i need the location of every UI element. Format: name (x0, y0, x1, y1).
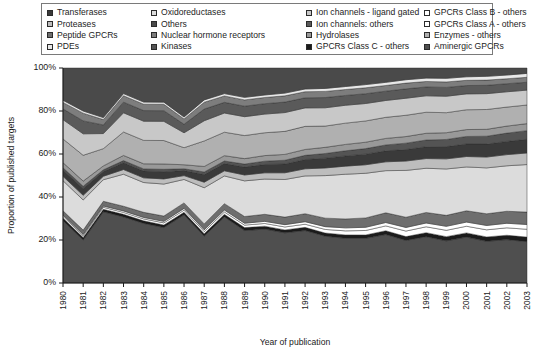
x-tick-label: 1996 (381, 291, 391, 310)
legend-item[interactable]: Peptide GPCRs (47, 31, 151, 40)
x-tick-label: 1994 (340, 291, 350, 310)
legend-swatch-icon (47, 32, 53, 38)
legend-item-label: Nuclear hormone receptors (161, 31, 265, 40)
x-tick-label: 1983 (119, 291, 129, 310)
legend-item-label: Kinases (161, 42, 192, 51)
legend-item-label: GPCRs Class C - others (316, 42, 409, 51)
x-tick-label: 1989 (240, 291, 250, 310)
legend-swatch-icon (151, 21, 157, 27)
legend-item[interactable]: Others (151, 20, 306, 29)
chart-figure: TransferasesOxidoreductasesIon channels … (0, 0, 535, 348)
legend-item-label: Peptide GPCRs (57, 31, 118, 40)
legend-swatch-icon (151, 10, 157, 16)
legend-swatch-icon (306, 10, 312, 16)
x-tick-label: 2000 (461, 291, 471, 310)
legend-item-label: Enzymes - others (434, 31, 501, 40)
legend-item-label: Ion channels: others (316, 20, 393, 29)
legend-row: ProteasesOthersIon channels: othersGPCRs… (47, 18, 490, 29)
x-axis-title: Year of publication (260, 337, 331, 347)
legend-swatch-icon (151, 32, 157, 38)
x-tick-label: 1992 (300, 291, 310, 310)
x-tick-label: 1986 (179, 291, 189, 310)
x-tick-label: 1995 (361, 291, 371, 310)
x-tick-label: 1991 (280, 291, 290, 310)
legend-swatch-icon (306, 21, 312, 27)
legend-item[interactable]: Transferases (47, 8, 151, 17)
x-tick-label: 2002 (502, 291, 512, 310)
legend-item[interactable]: Enzymes - others (424, 31, 496, 40)
x-tick-label: 1993 (320, 291, 330, 310)
x-tick-label: 1984 (139, 291, 149, 310)
legend-item[interactable]: GPCRs Class C - others (306, 42, 424, 51)
y-tick-label: 20% (38, 234, 56, 244)
legend-item[interactable]: Oxidoreductases (151, 8, 306, 17)
legend-swatch-icon (47, 44, 53, 50)
legend-item-label: Oxidoreductases (161, 8, 226, 17)
legend-item-label: Hydrolases (316, 31, 359, 40)
chart-legend: TransferasesOxidoreductasesIon channels … (41, 3, 493, 55)
legend-item-label: PDEs (57, 42, 79, 51)
x-tick-label: 1981 (78, 291, 88, 310)
legend-item[interactable]: Hydrolases (306, 31, 424, 40)
legend-item-label: GPCRs Class A - others (434, 20, 526, 29)
y-tick-label: 100% (34, 62, 57, 72)
legend-item[interactable]: Proteases (47, 20, 151, 29)
legend-item[interactable]: Ion channels: others (306, 20, 424, 29)
legend-swatch-icon (424, 10, 430, 16)
y-tick-label: 60% (38, 148, 56, 158)
legend-item[interactable]: PDEs (47, 42, 151, 51)
x-tick-label: 1997 (401, 291, 411, 310)
legend-swatch-icon (47, 21, 53, 27)
x-tick-label: 2003 (522, 291, 532, 310)
x-tick-label: 1980 (58, 291, 68, 310)
y-axis-title: Proportion of published targets (6, 117, 16, 234)
y-tick-label: 80% (38, 105, 56, 115)
legend-swatch-icon (151, 44, 157, 50)
legend-item-label: Proteases (57, 20, 96, 29)
stacked-area-chart: 0%20%40%60%80%100%1980198119821983198419… (0, 57, 535, 348)
x-tick-label: 1999 (441, 291, 451, 310)
legend-swatch-icon (306, 44, 312, 50)
legend-swatch-icon (424, 32, 430, 38)
legend-item[interactable]: Ion channels - ligand gated (306, 8, 424, 17)
legend-swatch-icon (424, 21, 430, 27)
legend-item[interactable]: Aminergic GPCRs (424, 42, 496, 51)
y-tick-label: 40% (38, 191, 56, 201)
legend-row: TransferasesOxidoreductasesIon channels … (47, 7, 490, 18)
legend-item-label: Aminergic GPCRs (434, 42, 504, 51)
legend-item[interactable]: Nuclear hormone receptors (151, 31, 306, 40)
x-tick-label: 1987 (199, 291, 209, 310)
x-tick-label: 1985 (159, 291, 169, 310)
legend-row: Peptide GPCRsNuclear hormone receptorsHy… (47, 30, 490, 41)
y-tick-label: 0% (43, 277, 56, 287)
x-tick-label: 1982 (98, 291, 108, 310)
plot-area: 0%20%40%60%80%100%1980198119821983198419… (0, 57, 535, 348)
legend-swatch-icon (47, 10, 53, 16)
legend-swatch-icon (424, 44, 430, 50)
legend-item-label: Ion channels - ligand gated (316, 8, 419, 17)
x-tick-label: 1990 (260, 291, 270, 310)
legend-row: PDEsKinasesGPCRs Class C - othersAminerg… (47, 41, 490, 52)
x-tick-label: 1988 (219, 291, 229, 310)
x-tick-label: 2001 (482, 291, 492, 310)
legend-item[interactable]: GPCRs Class A - others (424, 20, 496, 29)
legend-item-label: Transferases (57, 8, 107, 17)
legend-item[interactable]: Kinases (151, 42, 306, 51)
legend-item-label: Others (161, 20, 187, 29)
x-tick-label: 1998 (421, 291, 431, 310)
legend-swatch-icon (306, 32, 312, 38)
legend-item[interactable]: GPCRs Class B - others (424, 8, 496, 17)
legend-item-label: GPCRs Class B - others (434, 8, 527, 17)
